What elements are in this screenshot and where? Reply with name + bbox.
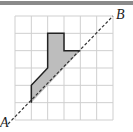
dashed-line-ab [8,16,113,124]
label-a: A [0,116,9,130]
label-b: B [116,8,125,22]
grid-diagram [0,0,133,132]
